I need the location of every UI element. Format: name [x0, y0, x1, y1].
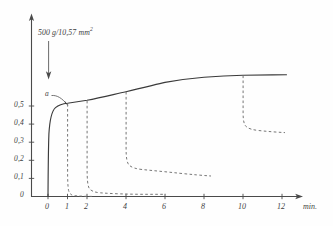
recovery-curve-10min [243, 76, 285, 133]
y-axis-label-0-1: 0,1 [14, 173, 24, 181]
point-a-label: a [45, 90, 49, 98]
load-annotation-arrow [46, 41, 51, 80]
y-axis-label-0-2: 0,2 [14, 155, 24, 163]
axis-group [29, 14, 303, 200]
y-axis-label-0-4: 0,4 [14, 119, 24, 127]
creep-curve [48, 75, 287, 197]
load-annotation-label: 500 g/10,57 mm2 [38, 27, 93, 36]
recovery-curve-1min [68, 104, 92, 196]
creep-recovery-figure: 500 g/10,57 mm2 a 0,5 0,4 0,3 0,2 0,1 0 … [0, 0, 333, 226]
recovery-curve-4min [126, 92, 211, 176]
y-axis-label-0: 0 [20, 191, 24, 199]
x-axis-label-0: 0 [45, 203, 49, 211]
x-axis-unit-label: min. [303, 203, 317, 211]
x-axis-label-10: 10 [238, 203, 246, 211]
y-axis-label-0-5: 0,5 [14, 101, 24, 109]
x-axis-label-4: 4 [123, 203, 127, 211]
x-axis-label-12: 12 [277, 203, 285, 211]
x-axis-label-2: 2 [84, 203, 88, 211]
x-axis-label-8: 8 [201, 203, 205, 211]
x-axis-label-6: 6 [162, 203, 166, 211]
y-axis-label-0-3: 0,3 [14, 137, 24, 145]
point-a-leader [52, 95, 69, 105]
x-axis-label-1: 1 [65, 203, 69, 211]
